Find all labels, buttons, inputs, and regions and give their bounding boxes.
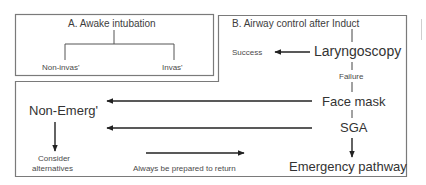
sga-node: SGA: [340, 120, 367, 135]
invasive-label: Invas': [162, 63, 183, 72]
non-invasive-label: Non-invas': [42, 63, 80, 72]
consider-label-line1: Consider: [38, 154, 70, 163]
consider-label-line2: alternatives: [32, 164, 73, 173]
non-emergency-node: Non-Emerg': [29, 103, 98, 118]
return-note: Always be prepared to return: [133, 164, 236, 173]
emergency-pathway-node: Emergency pathway: [289, 159, 407, 174]
panel-b-title: B. Airway control after Induct: [232, 18, 359, 29]
panel-a-title: A. Awake intubation: [68, 18, 156, 29]
face-mask-node: Face mask: [322, 94, 386, 109]
laryngoscopy-node: Laryngoscopy: [314, 43, 401, 59]
success-label: Success: [232, 48, 262, 57]
failure-label: Failure: [339, 72, 363, 81]
